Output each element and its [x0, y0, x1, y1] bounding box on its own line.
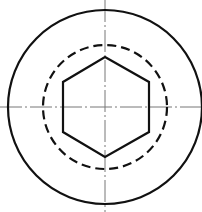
technical-drawing — [0, 0, 202, 212]
